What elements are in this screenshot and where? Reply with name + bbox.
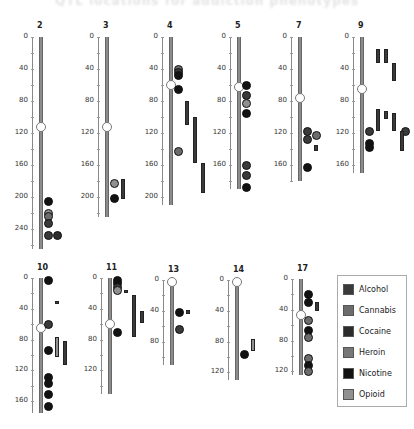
- centromere-marker: [105, 319, 115, 329]
- y-axis: [32, 278, 33, 413]
- y-tick: [162, 295, 165, 296]
- qtl-point-alcohol: [242, 171, 251, 180]
- y-tick: [100, 355, 103, 356]
- y-axis: [162, 37, 163, 205]
- y-tick: [97, 165, 100, 166]
- centromere-marker: [232, 277, 242, 287]
- y-tick: [161, 53, 164, 54]
- y-tick-label: 0: [139, 275, 159, 283]
- y-tick-label: 120: [206, 128, 226, 136]
- y-tick: [161, 85, 164, 86]
- y-tick: [31, 53, 34, 54]
- y-tick: [97, 197, 100, 198]
- y-tick: [291, 325, 294, 326]
- y-tick-label: 0: [329, 32, 349, 40]
- y-tick: [162, 342, 165, 343]
- y-tick-label: 120: [268, 366, 288, 374]
- y-tick-label: 200: [74, 192, 94, 200]
- y-tick: [291, 279, 294, 280]
- qtl-point-cocaine: [53, 231, 62, 240]
- y-tick: [31, 149, 34, 150]
- y-tick-label: 200: [138, 192, 158, 200]
- qtl-point-alcohol: [44, 219, 53, 228]
- y-tick: [229, 149, 232, 150]
- y-tick: [352, 85, 355, 86]
- chromosome-label: 5: [235, 21, 241, 30]
- y-tick: [227, 311, 230, 312]
- y-tick-label: 0: [8, 273, 28, 281]
- y-tick: [352, 53, 355, 54]
- legend-item-nicotine: Nicotine: [343, 366, 392, 380]
- qtl-point-nicotine: [175, 308, 184, 317]
- qtl-point-opioid: [113, 286, 122, 295]
- y-tick: [31, 165, 34, 166]
- y-tick: [227, 372, 230, 373]
- y-tick: [162, 357, 165, 358]
- y-tick: [290, 133, 293, 134]
- y-tick: [97, 53, 100, 54]
- y-tick: [291, 371, 294, 372]
- y-tick: [97, 85, 100, 86]
- y-tick-label: 80: [8, 96, 28, 104]
- alcohol-swatch-icon: [343, 284, 354, 295]
- y-tick-label: 120: [138, 128, 158, 136]
- cannabis-swatch-icon: [343, 305, 354, 316]
- y-tick: [31, 370, 34, 371]
- figure-title: QTL locations for addiction phenotypes: [0, 0, 414, 8]
- y-tick: [161, 197, 164, 198]
- chromosome-bar: [298, 37, 302, 181]
- y-tick: [290, 149, 293, 150]
- y-tick-label: 80: [267, 96, 287, 104]
- y-tick: [97, 181, 100, 182]
- y-tick: [100, 278, 103, 279]
- qtl-point-nicotine: [242, 109, 251, 118]
- y-tick-label: 0: [77, 273, 97, 281]
- y-tick: [97, 213, 100, 214]
- y-tick-label: 160: [329, 160, 349, 168]
- y-tick: [229, 133, 232, 134]
- y-tick: [352, 69, 355, 70]
- qtl-point-nicotine: [110, 194, 119, 203]
- qtl-interval-alcohol: [314, 145, 318, 151]
- chromosome-label: 14: [233, 265, 244, 274]
- heroin-swatch-icon: [343, 347, 354, 358]
- centromere-marker: [102, 122, 112, 132]
- qtl-point-nicotine: [304, 298, 313, 307]
- qtl-interval-alcohol: [400, 131, 404, 151]
- y-tick: [227, 357, 230, 358]
- y-tick: [97, 133, 100, 134]
- y-tick: [227, 280, 230, 281]
- y-tick: [31, 278, 34, 279]
- y-tick: [161, 101, 164, 102]
- chromosome-bar: [108, 278, 112, 394]
- y-tick: [100, 309, 103, 310]
- qtl-point-nicotine: [44, 276, 53, 285]
- y-tick: [31, 133, 34, 134]
- y-tick: [229, 53, 232, 54]
- y-tick-label: 120: [77, 365, 97, 373]
- centromere-marker: [36, 122, 46, 132]
- y-tick-label: 160: [206, 160, 226, 168]
- qtl-point-nicotine: [113, 328, 122, 337]
- y-tick-label: 40: [8, 304, 28, 312]
- y-tick-label: 120: [74, 128, 94, 136]
- nicotine-swatch-icon: [343, 368, 354, 379]
- y-tick: [229, 165, 232, 166]
- y-tick: [290, 117, 293, 118]
- y-tick: [290, 37, 293, 38]
- qtl-interval-alcohol: [384, 49, 388, 63]
- y-axis: [230, 37, 231, 189]
- qtl-interval-alcohol: [201, 163, 205, 193]
- y-tick: [100, 324, 103, 325]
- chromosome-label: 7: [296, 21, 302, 30]
- y-tick: [31, 213, 34, 214]
- qtl-point-alcohol: [242, 161, 251, 170]
- qtl-point-cannabis: [304, 333, 313, 342]
- y-tick: [97, 117, 100, 118]
- qtl-point-alcohol: [175, 325, 184, 334]
- y-tick: [31, 293, 34, 294]
- y-axis: [353, 37, 354, 173]
- y-tick-label: 80: [77, 335, 97, 343]
- y-tick: [352, 165, 355, 166]
- qtl-interval-alcohol: [376, 49, 380, 63]
